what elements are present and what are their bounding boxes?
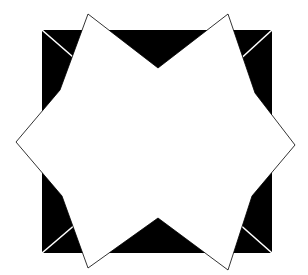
figure-canvas bbox=[0, 0, 308, 275]
star-figure-svg bbox=[0, 0, 308, 275]
